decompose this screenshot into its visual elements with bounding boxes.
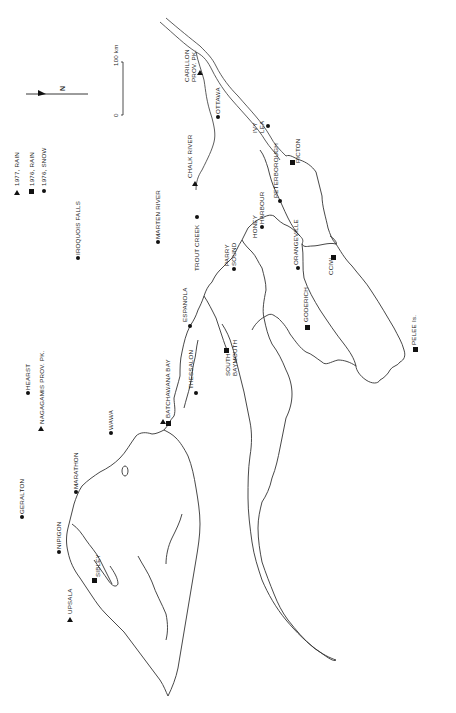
svg-text:HEARST: HEARST xyxy=(24,364,31,390)
svg-text:OTTAWA: OTTAWA xyxy=(214,87,221,114)
site-nagagamis[interactable]: NAGAGAMIS PROV. PK. xyxy=(38,351,45,431)
svg-text:SOUND: SOUND xyxy=(230,242,237,266)
site-peterborough[interactable]: PETERBOROUGH xyxy=(272,143,282,203)
circle-icon xyxy=(232,267,236,271)
site-picton[interactable]: PICTON xyxy=(290,139,301,165)
circle-icon xyxy=(296,266,300,270)
site-chalk-river[interactable]: CHALK RIVER xyxy=(186,134,198,186)
svg-text:NAGAGAMIS PROV. PK.: NAGAGAMIS PROV. PK. xyxy=(38,351,45,424)
svg-text:IVY: IVY xyxy=(251,122,258,133)
site-wawa[interactable]: WAWA xyxy=(107,409,114,435)
circle-icon xyxy=(26,391,30,395)
site-espanola[interactable]: ESPANOLA xyxy=(181,287,192,328)
svg-text:SOUTH: SOUTH xyxy=(224,353,231,376)
svg-text:NIPIGON: NIPIGON xyxy=(55,521,62,549)
site-pelee-island[interactable]: PELEE Is. xyxy=(410,315,418,352)
scale-bar: 0 100 km xyxy=(112,45,123,118)
svg-text:Is.: Is. xyxy=(410,315,417,322)
svg-text:MARATHON: MARATHON xyxy=(72,452,79,489)
svg-text:BATCHAWANA BAY: BATCHAWANA BAY xyxy=(164,359,171,418)
triangle-icon xyxy=(67,617,73,622)
svg-text:0: 0 xyxy=(112,113,119,117)
svg-text:MARTEN RIVER: MARTEN RIVER xyxy=(154,190,161,239)
circle-icon xyxy=(57,550,61,554)
svg-text:CARILLON: CARILLON xyxy=(183,49,190,82)
svg-text:HARBOUR: HARBOUR xyxy=(258,191,265,224)
svg-text:UPSALA: UPSALA xyxy=(66,588,73,614)
svg-text:PARRY: PARRY xyxy=(223,244,230,266)
north-arrow: N xyxy=(26,86,88,96)
svg-text:PICTON: PICTON xyxy=(294,139,301,163)
site-hearst[interactable]: HEARST xyxy=(24,364,31,395)
site-cciw[interactable]: CCIW xyxy=(327,255,336,275)
svg-text:PROV. PK.: PROV. PK. xyxy=(190,50,197,82)
svg-text:ESPANOLA: ESPANOLA xyxy=(181,287,188,322)
site-parry-sound[interactable]: PARRY SOUND xyxy=(223,242,237,271)
svg-text:HONEY: HONEY xyxy=(251,215,258,238)
circle-icon xyxy=(260,225,264,229)
triangle-icon xyxy=(14,190,20,195)
svg-text:GODERICH: GODERICH xyxy=(302,287,309,322)
square-icon xyxy=(305,325,310,330)
svg-text:IROQUOIS FALLS: IROQUOIS FALLS xyxy=(74,201,81,255)
svg-text:GERALTON: GERALTON xyxy=(18,479,25,514)
site-thessalon[interactable]: THESSALON xyxy=(187,350,198,395)
circle-icon xyxy=(216,115,220,119)
svg-text:TROUT CREEK: TROUT CREEK xyxy=(193,224,200,271)
square-icon xyxy=(166,421,171,426)
square-icon xyxy=(413,347,418,352)
square-icon xyxy=(29,189,34,194)
svg-text:1976, SNOW: 1976, SNOW xyxy=(40,148,47,186)
precipitation-sites-map: 1977, RAIN 1976, RAIN 1976, SNOW N 0 100… xyxy=(0,0,456,713)
legend-item-1977-rain: 1977, RAIN xyxy=(13,152,20,195)
circle-icon xyxy=(194,391,198,395)
site-honey-harbour[interactable]: HONEY HARBOUR xyxy=(251,191,265,238)
site-marten-river[interactable]: MARTEN RIVER xyxy=(154,190,161,244)
site-iroquois-falls[interactable]: IROQUOIS FALLS xyxy=(74,201,81,260)
svg-text:1977, RAIN: 1977, RAIN xyxy=(13,152,20,186)
site-upsala[interactable]: UPSALA xyxy=(66,588,73,622)
site-ottawa[interactable]: OTTAWA xyxy=(214,87,221,119)
circle-icon xyxy=(74,490,78,494)
circle-icon xyxy=(195,215,199,219)
svg-text:THESSALON: THESSALON xyxy=(187,350,194,389)
circle-icon xyxy=(156,240,160,244)
site-nipigon[interactable]: NIPIGON xyxy=(55,521,62,554)
site-marathon[interactable]: MARATHON xyxy=(72,452,79,494)
svg-text:ORANGEVILLE: ORANGEVILLE xyxy=(292,219,299,265)
svg-text:PETERBOROUGH: PETERBOROUGH xyxy=(272,143,279,198)
svg-text:CCIW: CCIW xyxy=(327,258,334,275)
sites: CARILLON PROV. PK. OTTAWA CHALK RIVER IV… xyxy=(18,49,418,622)
svg-text:1976, RAIN: 1976, RAIN xyxy=(28,152,35,186)
site-batchawana-bay[interactable]: BATCHAWANA BAY xyxy=(160,359,171,426)
svg-text:LEA: LEA xyxy=(258,120,265,133)
svg-text:WAWA: WAWA xyxy=(107,409,114,430)
site-orangeville[interactable]: ORANGEVILLE xyxy=(292,219,300,270)
site-sibley[interactable]: SIBLEY xyxy=(92,554,101,583)
circle-icon xyxy=(42,189,46,193)
svg-text:100 km: 100 km xyxy=(112,45,119,67)
svg-text:N: N xyxy=(59,86,66,91)
circle-icon xyxy=(109,431,113,435)
square-icon xyxy=(224,348,229,353)
site-south-baymouth[interactable]: SOUTH BAYMOUTH xyxy=(224,340,238,376)
svg-text:CHALK RIVER: CHALK RIVER xyxy=(186,134,193,178)
triangle-icon xyxy=(38,426,44,431)
circle-icon xyxy=(266,124,270,128)
square-icon xyxy=(92,578,97,583)
legend-item-1976-snow: 1976, SNOW xyxy=(40,148,47,193)
circle-icon xyxy=(76,256,80,260)
map-legend: 1977, RAIN 1976, RAIN 1976, SNOW xyxy=(13,148,47,195)
triangle-icon xyxy=(160,419,166,424)
arrow-head-icon xyxy=(38,90,46,96)
site-geralton[interactable]: GERALTON xyxy=(18,479,25,519)
site-trout-creek[interactable]: TROUT CREEK xyxy=(193,215,200,271)
svg-text:SIBLEY: SIBLEY xyxy=(94,554,101,577)
legend-item-1976-rain: 1976, RAIN xyxy=(28,152,35,194)
circle-icon xyxy=(188,324,192,328)
svg-text:PELEE: PELEE xyxy=(410,324,417,345)
svg-text:BAYMOUTH: BAYMOUTH xyxy=(231,340,238,376)
site-goderich[interactable]: GODERICH xyxy=(302,287,310,330)
circle-icon xyxy=(20,515,24,519)
circle-icon xyxy=(278,199,282,203)
